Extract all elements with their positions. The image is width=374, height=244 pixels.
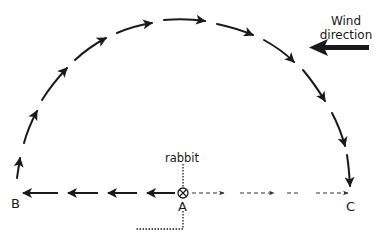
point-b-label: B [11,197,20,210]
wind-direction-label: Wind direction [318,14,374,42]
wind-label-line2: direction [318,28,374,42]
a-leader [136,211,183,229]
arc-arrow-5 [117,23,152,33]
dotted-leaders [136,164,183,229]
circled-x-icon [178,188,188,198]
point-a-label: A [178,200,187,213]
arc-arrow-7 [217,24,253,35]
arc-arrow-3 [42,68,67,100]
arc-arrow-1 [17,158,20,178]
arc-arrow-10 [332,113,345,146]
wind-label-line1: Wind [318,14,374,28]
arc-arrow-11 [347,155,350,186]
rabbit-label: rabbit [165,153,199,165]
point-c-label: C [346,200,355,213]
arc-arrow-4 [75,38,106,60]
arc-arrow-2 [24,111,37,143]
arc-arrow-8 [264,40,294,62]
arc-arrow-9 [303,70,325,101]
arc-arrow-6 [164,19,205,21]
